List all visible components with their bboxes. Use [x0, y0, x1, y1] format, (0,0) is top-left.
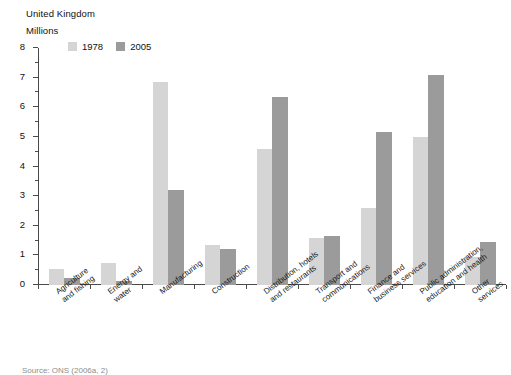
- x-axis-tick: [142, 285, 143, 289]
- bar-group: [350, 48, 402, 285]
- bar-2005-4: [272, 97, 288, 285]
- bar-group: [142, 48, 194, 285]
- x-axis-tick: [454, 285, 455, 289]
- y-axis-tick-label: 3: [20, 190, 25, 200]
- x-axis-tick: [38, 285, 39, 289]
- source-note: Source: ONS (2006a, 2): [22, 366, 108, 375]
- plot-area: 012345678: [38, 48, 506, 285]
- bar-group: [402, 48, 454, 285]
- y-axis-tick-label: 5: [20, 131, 25, 141]
- bar-1978-3: [205, 245, 221, 285]
- y-axis-tick-label: 8: [20, 42, 25, 52]
- bar-group: [90, 48, 142, 285]
- region-title: United Kingdom: [26, 8, 95, 19]
- bar-1978-4: [257, 149, 273, 285]
- bar-group: [38, 48, 90, 285]
- x-axis-tick: [402, 285, 403, 289]
- bar-group: [194, 48, 246, 285]
- x-axis-tick: [90, 285, 91, 289]
- bar-2005-7: [428, 75, 444, 285]
- y-axis-tick-label: 2: [20, 220, 25, 230]
- x-axis-tick: [506, 285, 507, 289]
- bar-group: [298, 48, 350, 285]
- x-axis-tick: [194, 285, 195, 289]
- y-axis-tick-label: 1: [20, 250, 25, 260]
- axis-units-label: Millions: [26, 25, 58, 36]
- y-axis-tick-label: 6: [20, 102, 25, 112]
- x-axis-tick: [246, 285, 247, 289]
- bar-group: [246, 48, 298, 285]
- bar-2005-6: [376, 132, 392, 285]
- bar-1978-2: [153, 82, 169, 285]
- y-axis-tick-label: 4: [20, 161, 25, 171]
- y-axis-tick-label: 7: [20, 72, 25, 82]
- y-axis-tick-label: 0: [20, 279, 25, 289]
- x-axis-tick: [298, 285, 299, 289]
- x-axis-tick: [350, 285, 351, 289]
